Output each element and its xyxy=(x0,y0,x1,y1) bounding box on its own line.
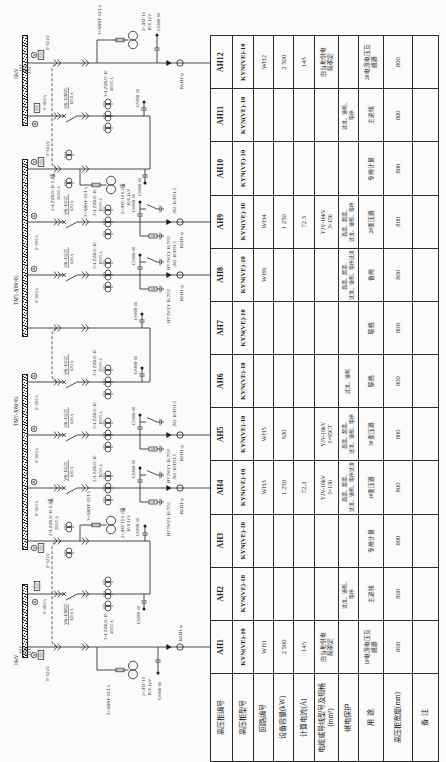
cabinet-width-cell: 800 xyxy=(384,142,413,195)
circuit-AH12: 0~12kV 3×XRNP-12/1A 2×JDZ-10 10/0.1kV GS… xyxy=(28,4,210,89)
row-header: 高压柜宽度(mm) xyxy=(384,674,413,762)
ammeter-icon xyxy=(31,373,37,379)
cable-spec-cell: YJV-10kV 3×95CT xyxy=(315,408,339,461)
meter-range-label: 0~100A xyxy=(34,500,39,516)
row-cabinet-model: 高压柜型号 KYN(VE)-10 KYN(VE)-10 KYN(VE)-10 K… xyxy=(233,36,254,762)
cable-head-icon xyxy=(166,219,171,225)
breaker-label: VK-10M25 xyxy=(63,603,68,625)
ammeter-icon xyxy=(32,121,38,127)
circuit-AH8: 0~100A VK-10J25 630A 3×LZZBJ9-10 100/5A … xyxy=(28,240,210,323)
ct-label: 3×LZZBJ9-10 xyxy=(103,70,108,97)
fuse-icon xyxy=(116,38,124,42)
capacity-cell: 2 500 xyxy=(274,36,294,89)
cabinet-model-cell: KYN(VE)-10 xyxy=(233,301,254,354)
ct-ratio-label: 100/5A xyxy=(98,411,103,425)
live-indicator-icon xyxy=(143,101,146,104)
circuit-AH6: 0~200A VK-10J25 630A 3×LZZBJ9-10 200/5A … xyxy=(28,328,150,410)
cabinet-number-cell: AH3 xyxy=(211,514,233,567)
current-transformer-icon xyxy=(103,418,113,428)
cable-head-icon xyxy=(166,485,171,491)
zero-sequence-ct-label: KLH1-φ xyxy=(179,498,184,514)
circuit-number-cell: WH1 xyxy=(254,620,274,673)
cable-head-icon xyxy=(166,272,171,278)
ct-ratio-label: 200/5A xyxy=(54,516,59,530)
switchgear-schedule-table: 高压柜编号 AH1 AH2 AH3 AH4 AH5 AH6 AH7 AH8 AH… xyxy=(210,35,439,762)
current-transformer-icon xyxy=(64,548,74,558)
meter-range-label: 0~400A xyxy=(42,94,47,110)
earthing-switch-label: JN2-10/D31.5 xyxy=(172,400,177,427)
remark-cell xyxy=(413,248,439,301)
zero-sequence-ct-label: KLH1-φ xyxy=(179,73,184,89)
cabinet-model-cell: KYN(VE)-10 xyxy=(233,248,254,301)
cable-spec-cell xyxy=(315,142,339,195)
circuit-AH7: GSNB-10 xyxy=(28,301,150,332)
row-header: 高压柜型号 xyxy=(233,674,254,762)
capacity-cell xyxy=(274,248,294,301)
protection-cell: 过流、速断、 零序 xyxy=(339,89,359,142)
live-indicator-label: GSNB-10 xyxy=(133,355,138,374)
cabinet-model-cell: KYN(VE)-10 xyxy=(233,195,254,248)
cabinet-number-cell: AH7 xyxy=(211,301,233,354)
meter-range-label: 0~200A xyxy=(34,394,39,410)
zero-sequence-ct-label: KLH1-φ xyxy=(179,445,184,461)
breaker-rating-label: 1250A xyxy=(69,608,74,621)
ct-ratio-label: 400/5A xyxy=(109,77,114,91)
cable-spec-cell xyxy=(315,301,339,354)
capacitor-icon xyxy=(155,660,160,662)
usage-cell: 主进线 xyxy=(359,89,384,142)
cabinet-model-cell: KYN(VE)-10 xyxy=(233,355,254,408)
arrester-label: HY5WZ1-16.7/50 xyxy=(166,448,171,483)
current-cell xyxy=(294,142,315,195)
breaker-label: VK-10M25 xyxy=(63,87,68,109)
interlock-line xyxy=(52,328,57,382)
protection-cell: 高温、超温、 过流、速断、零序过流 xyxy=(339,248,359,301)
current-transformer-icon xyxy=(103,589,113,599)
breaker-rating-label: 630A xyxy=(69,200,74,211)
meter-range-label: 0~100A xyxy=(34,234,39,250)
meter-range-label: 0~12kV xyxy=(45,552,50,568)
cabinet-number-cell: AH10 xyxy=(211,142,233,195)
zero-sequence-ct-label: KLH1-φ xyxy=(179,232,184,248)
earthing-switch-label: JN2-10/D31.5 xyxy=(172,453,177,480)
row-header: 设备容量(kW) xyxy=(274,674,294,762)
ammeter-icon xyxy=(31,213,37,219)
cabinet-model-cell: KYN(VE)-10 xyxy=(233,408,254,461)
ammeter-icon xyxy=(31,266,37,272)
cabinet-width-cell: 800 xyxy=(384,461,413,514)
capacitor-icon xyxy=(139,374,144,376)
cable-spec-cell xyxy=(315,89,339,142)
ammeter-icon xyxy=(31,479,37,485)
row-header: 继电保护 xyxy=(339,674,359,762)
protection-cell xyxy=(339,620,359,673)
usage-cell: 专用计量 xyxy=(359,514,384,567)
cable-spec-cell: YJV-10kV 3×150 xyxy=(315,195,339,248)
cabinet-model-cell: KYN(VE)-10 xyxy=(233,620,254,673)
current-transformer-icon xyxy=(103,205,113,215)
current-transformer-icon xyxy=(103,270,113,280)
circuit-number-cell xyxy=(254,514,274,567)
cabinet-number-cell: AH2 xyxy=(211,567,233,620)
breaker-blade xyxy=(66,488,77,494)
current-cell: 72.3 xyxy=(294,195,315,248)
row-header: 用 途 xyxy=(359,674,384,762)
ground-icon xyxy=(160,206,163,213)
surge-arrester-icon xyxy=(149,234,157,238)
circuit-number-cell: WH5 xyxy=(254,408,274,461)
voltmeter-icon xyxy=(31,652,37,658)
surge-arrester-icon xyxy=(149,447,157,451)
protection-cell: 高温、超温、 过流、速断、零序 xyxy=(339,195,359,248)
cabinet-number-cell: AH6 xyxy=(211,355,233,408)
earthing-switch xyxy=(140,418,160,423)
current-transformer-icon xyxy=(103,389,113,399)
cabinet-number-cell: AH11 xyxy=(211,89,233,142)
fuse-icon xyxy=(116,668,124,672)
live-indicator-label: GSNB-10 xyxy=(135,517,140,536)
busbar-spec-label: TMY-3(80×8) xyxy=(13,275,20,305)
capacitor-icon xyxy=(137,267,142,269)
live-indicator-label: GSNB-10 xyxy=(137,177,142,196)
live-indicator-label: GSNB-10 xyxy=(136,605,141,624)
current-transformer-icon xyxy=(103,258,113,268)
cable-spec-cell xyxy=(315,355,339,408)
remark-cell xyxy=(413,355,439,408)
ct-ratio-label: 200/5A xyxy=(98,358,103,372)
